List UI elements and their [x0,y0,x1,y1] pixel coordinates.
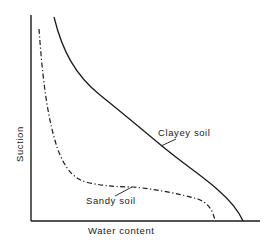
clayey-soil-leader-line [161,139,176,146]
soil-water-characteristic-diagram: Suction Water content Clayey soil Sandy … [0,0,275,246]
sandy-soil-curve [39,29,215,221]
diagram-canvas [0,0,275,246]
y-axis-label: Suction [14,126,25,162]
clayey-soil-curve [54,17,243,221]
clayey-soil-label: Clayey soil [158,128,211,138]
sandy-soil-label: Sandy soil [86,196,136,206]
x-axis-label: Water content [88,226,155,236]
